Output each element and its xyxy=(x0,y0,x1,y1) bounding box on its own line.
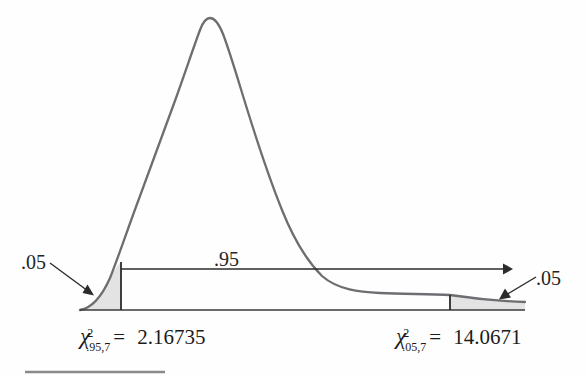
lower-tail-leader-line xyxy=(50,263,88,291)
chi-square-figure: .05 .95 .05 χ2.95,7= 2.16735 χ2.05,7= 14… xyxy=(0,0,587,376)
chi-subscript-lower: .95,7 xyxy=(86,340,110,354)
equals-sign-upper: = xyxy=(429,325,441,349)
upper-tail-arrowhead-icon xyxy=(499,289,511,300)
chi-square-plot-svg xyxy=(0,0,587,376)
lower-critical-value-label: χ2.95,7= 2.16735 xyxy=(80,325,205,351)
lower-tail-arrowhead-icon xyxy=(83,285,95,296)
upper-tail-probability-label: .05 xyxy=(536,268,561,288)
lower-critical-value-number: 2.16735 xyxy=(137,325,205,349)
chi-square-density-curve xyxy=(80,18,525,310)
chi-exponent-upper: 2 xyxy=(403,326,409,340)
chi-exponent-lower: 2 xyxy=(87,326,93,340)
confidence-interval-arrowhead-icon xyxy=(503,264,513,275)
lower-tail-probability-label: .05 xyxy=(21,252,46,272)
upper-critical-value-number: 14.0671 xyxy=(453,325,521,349)
lower-tail-shaded-region xyxy=(80,262,121,310)
upper-tail-leader-line xyxy=(506,277,536,295)
equals-sign-lower: = xyxy=(113,325,125,349)
upper-critical-value-label: χ2.05,7= 14.0671 xyxy=(396,325,521,351)
chi-subscript-upper: .05,7 xyxy=(402,340,426,354)
central-interval-probability-label: .95 xyxy=(214,249,239,269)
